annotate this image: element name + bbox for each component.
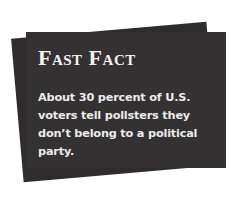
fast-fact-box: Fast Fact About 30 percent of U.S. voter… bbox=[0, 0, 239, 199]
fast-fact-body: About 30 percent of U.S. voters tell pol… bbox=[38, 89, 224, 161]
fast-fact-title: Fast Fact bbox=[38, 44, 136, 72]
